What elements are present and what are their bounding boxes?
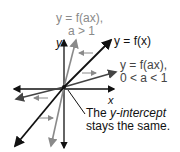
y-axis-label: y bbox=[56, 37, 62, 49]
parent-label: y = f(x) bbox=[114, 35, 151, 47]
note-italic: y-intercept bbox=[110, 106, 166, 120]
x-axis-label: x bbox=[108, 94, 114, 106]
intercept-pointer bbox=[68, 90, 85, 114]
steep-label-line2: a > 1 bbox=[68, 25, 95, 37]
steep-label-line1: y = f(ax), bbox=[56, 12, 103, 24]
origin-point bbox=[62, 85, 66, 89]
shallow-label-line1: y = f(ax), bbox=[120, 59, 167, 71]
note-prefix: The bbox=[86, 106, 110, 120]
intercept-note-line2: stays the same. bbox=[86, 120, 170, 132]
shallow-label-line2: 0 < a < 1 bbox=[120, 72, 167, 84]
intercept-note-line1: The y-intercept bbox=[86, 107, 166, 119]
